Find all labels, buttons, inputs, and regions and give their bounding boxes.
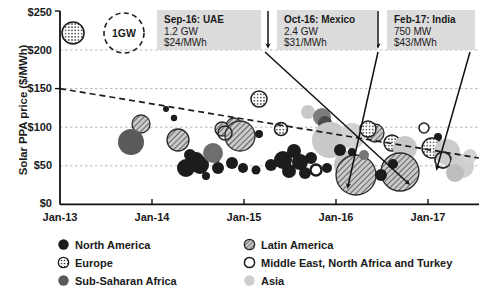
legend-marker-mena-turkey-icon	[243, 256, 256, 269]
size-reference-label: 1GW	[104, 27, 144, 39]
legend-label-sub-saharan-africa: Sub-Saharan Africa	[75, 275, 177, 287]
legend-marker-latin-america-icon	[243, 238, 256, 251]
legend-marker-europe-icon	[57, 256, 70, 269]
legend-label-north-america: North America	[75, 239, 150, 251]
annotation-mexico-price: $31/MWh	[284, 37, 371, 49]
legend-item-asia: Asia	[243, 274, 284, 287]
legend-label-latin-america: Latin America	[261, 239, 333, 251]
annotation-uae-capacity: 1.2 GW	[164, 26, 255, 38]
legend-item-mena-turkey: Middle East, North Africa and Turkey	[243, 256, 452, 269]
legend-marker-asia-icon	[243, 274, 256, 287]
annotation-box-india: Feb-17: India 750 MW $43/MWh	[387, 10, 475, 50]
annotation-box-uae: Sep-16: UAE 1.2 GW $24/MWh	[157, 10, 261, 50]
legend-label-asia: Asia	[261, 275, 284, 287]
legend-item-sub-saharan-africa: Sub-Saharan Africa	[57, 274, 177, 287]
solar-ppa-price-bubble-chart: Solar PPA price ($/MWh) $250 $200 $150 $…	[0, 0, 483, 292]
legend: North America Europe Sub-Saharan Africa	[0, 238, 483, 292]
legend-label-mena-turkey: Middle East, North Africa and Turkey	[261, 257, 452, 269]
legend-label-europe: Europe	[75, 257, 113, 269]
legend-item-north-america: North America	[57, 238, 150, 251]
annotation-mexico-capacity: 2.4 GW	[284, 26, 371, 38]
annotation-india-title: Feb-17: India	[394, 14, 469, 26]
annotation-mexico-title: Oct-16: Mexico	[284, 14, 371, 26]
legend-marker-sub-saharan-africa-icon	[57, 274, 70, 287]
annotation-box-mexico: Oct-16: Mexico 2.4 GW $31/MWh	[277, 10, 377, 50]
annotation-uae-title: Sep-16: UAE	[164, 14, 255, 26]
legend-item-europe: Europe	[57, 256, 113, 269]
annotation-india-capacity: 750 MW	[394, 26, 469, 38]
annotation-uae-price: $24/MWh	[164, 37, 255, 49]
legend-item-latin-america: Latin America	[243, 238, 333, 251]
legend-marker-north-america-icon	[57, 238, 70, 251]
annotation-india-price: $43/MWh	[394, 37, 469, 49]
